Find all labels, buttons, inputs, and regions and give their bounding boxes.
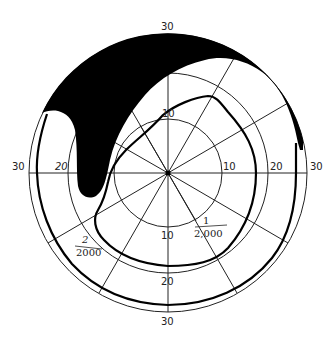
isopter-label-2-2000: 2 2000 bbox=[75, 234, 102, 258]
label-top-30: 30 bbox=[161, 21, 174, 32]
label-bottom-30: 30 bbox=[161, 316, 174, 327]
label-bottom-10: 10 bbox=[161, 230, 174, 241]
isopter-label-1-2000: 1 2,000 bbox=[194, 215, 227, 239]
label-bottom-20: 20 bbox=[161, 276, 174, 287]
label-right-20: 20 bbox=[270, 161, 283, 172]
label-left-30: 30 bbox=[12, 161, 25, 172]
label-right-30: 30 bbox=[310, 161, 323, 172]
isopter-2-numerator: 2 bbox=[81, 234, 88, 245]
label-left-20: 20 bbox=[55, 161, 68, 172]
visual-field-chart: 30 30 20 10 10 20 30 10 20 30 1 2,000 2 … bbox=[0, 0, 335, 337]
isopter-1-numerator: 1 bbox=[203, 215, 209, 226]
isopter-2-denominator: 2000 bbox=[76, 247, 101, 258]
label-top-10: 10 bbox=[162, 108, 175, 119]
label-right-10: 10 bbox=[223, 161, 236, 172]
fixation-point bbox=[166, 171, 171, 176]
isopter-1-denominator: 2,000 bbox=[194, 228, 223, 239]
